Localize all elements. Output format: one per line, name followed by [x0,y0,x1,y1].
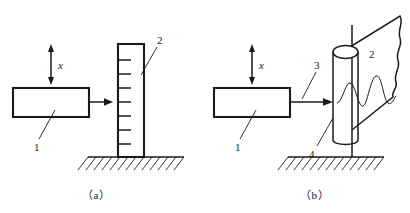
caption-a: （a） [82,189,110,201]
caption-b: （b） [300,189,329,201]
measure-beam-b [290,98,333,106]
beam-label-b: 3 [314,59,320,71]
panel-a: x 1 [13,34,184,201]
sensor-block-b [214,88,290,117]
cylinder-b [333,46,358,145]
sheet-label-b: 2 [369,48,375,60]
panel-b: x 1 3 2 [214,16,401,201]
block-label-b: 1 [235,141,241,153]
torn-sheet-b [337,16,401,130]
displacement-label-b: x [258,59,264,71]
displacement-label-a: x [57,59,63,71]
displacement-arrow-a [48,44,54,85]
measure-arrow-a [89,98,113,105]
sensor-block-a [13,88,89,117]
graduated-column-a [118,44,144,157]
figure-canvas: x 1 [0,0,410,213]
ground-b [278,157,384,170]
leader-line-cylinder-b [317,118,333,146]
ground-hatching-a [78,157,184,170]
leader-line-beam-b [302,72,316,99]
figure-root: x 1 [0,0,410,213]
ground-a [78,157,184,170]
cylinder-label-b: 4 [309,148,315,160]
ground-hatching-b [278,157,384,170]
displacement-arrow-b [249,44,255,85]
block-label-a: 1 [34,141,40,153]
target-label-a: 2 [157,34,163,46]
